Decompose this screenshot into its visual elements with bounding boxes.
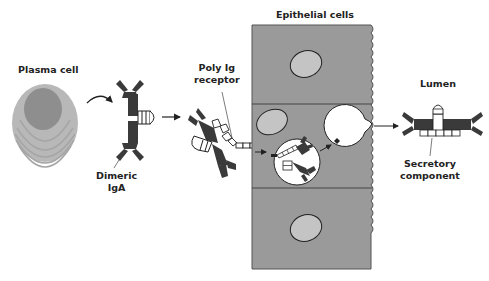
secretory-component-label: Secretory component <box>400 158 460 182</box>
secretory-component-label-line2: component <box>400 170 460 182</box>
dimeric-iga-label-line1: Dimeric <box>96 170 137 182</box>
lumen-label: Lumen <box>420 78 456 90</box>
poly-ig-receptor-label-line2: receptor <box>194 74 240 86</box>
dimeric-iga-label: Dimeric IgA <box>96 170 137 194</box>
plasma-cell-nucleus <box>24 88 62 130</box>
plasma-cell-label: Plasma cell <box>18 64 79 76</box>
plasma-cell <box>12 84 78 167</box>
secretory-iga-icon <box>402 105 483 136</box>
secretory-component-pointer <box>430 138 432 156</box>
secretory-component-icon <box>420 130 460 136</box>
secretion-arrow <box>87 96 112 103</box>
poly-ig-receptor-label: Poly Ig receptor <box>194 62 240 86</box>
poly-ig-receptor-label-line1: Poly Ig <box>194 62 240 74</box>
epithelial-cells-label: Epithelial cells <box>276 9 354 21</box>
dimeric-iga-icon <box>116 80 154 161</box>
secretory-component-label-line1: Secretory <box>400 158 460 170</box>
dimeric-iga-label-line2: IgA <box>96 182 137 194</box>
transcytosis-diagram <box>0 0 489 281</box>
